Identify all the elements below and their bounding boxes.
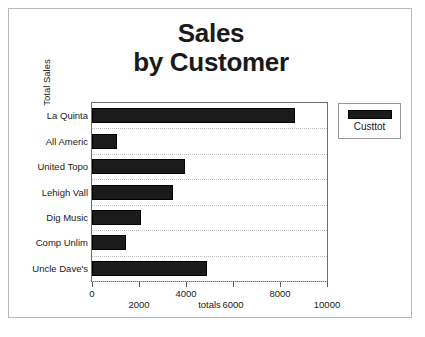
bar-dig-music	[92, 210, 141, 225]
legend-swatch-custtot	[348, 110, 392, 119]
category-label: United Topo	[0, 161, 88, 172]
category-label: Comp Unlim	[0, 237, 88, 248]
bar-all-americ	[92, 134, 117, 149]
category-label: Dig Music	[0, 212, 88, 223]
bar-row: United Topo	[92, 154, 327, 180]
bar-united-topo	[92, 159, 185, 174]
bar-row: Comp Unlim	[92, 230, 327, 256]
x-tick-label: 8000	[269, 288, 290, 299]
x-tick	[233, 282, 234, 287]
x-tick-label: 4000	[175, 288, 196, 299]
chart-legend: Custtot	[338, 103, 401, 139]
category-label: Lehigh Vall	[0, 187, 88, 198]
bar-row: All Americ	[92, 128, 327, 154]
x-axis: 0200040006000800010000	[91, 282, 328, 288]
category-label: Uncle Dave's	[0, 263, 88, 274]
x-tick	[139, 282, 140, 287]
title-line-2: by Customer	[9, 48, 413, 77]
bar-uncle-dave-s	[92, 261, 207, 276]
x-axis-title: totals	[91, 299, 328, 310]
x-tick	[186, 282, 187, 287]
title-line-1: Sales	[178, 18, 244, 48]
bar-row: Lehigh Vall	[92, 179, 327, 205]
bar-row: Dig Music	[92, 205, 327, 231]
legend-label-custtot: Custtot	[339, 121, 400, 132]
x-tick	[327, 282, 328, 287]
x-tick	[280, 282, 281, 287]
category-label: La Quinta	[0, 110, 88, 121]
category-label: All Americ	[0, 136, 88, 147]
bar-lehigh-vall	[92, 185, 173, 200]
bar-row: La Quinta	[92, 103, 327, 129]
x-tick-label: 0	[89, 288, 94, 299]
bar-comp-unlim	[92, 235, 126, 250]
bar-la-quinta	[92, 108, 295, 123]
slide-frame: Sales by Customer Total Sales La QuintaA…	[8, 8, 412, 318]
plot-area: La QuintaAll AmericUnited TopoLehigh Val…	[91, 102, 328, 282]
page-title: Sales by Customer	[9, 19, 413, 77]
bar-row: Uncle Dave's	[92, 256, 327, 282]
x-tick	[92, 282, 93, 287]
